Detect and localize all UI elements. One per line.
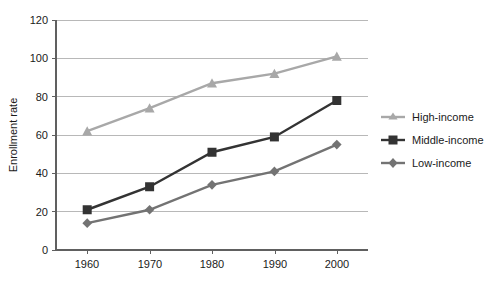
y-tick-label-20: 20 — [36, 206, 48, 218]
x-tick-label-1990: 1990 — [263, 258, 287, 270]
y-tick-label-0: 0 — [42, 244, 48, 256]
x-tick-label-1980: 1980 — [200, 258, 224, 270]
x-tick-label-2000: 2000 — [325, 258, 349, 270]
y-tick-label-40: 40 — [36, 167, 48, 179]
chart-figure: 120 100 80 60 40 20 0 Enrollment rate 19… — [0, 0, 489, 285]
y-tick-labels-group: 120 100 80 60 40 20 0 — [30, 14, 48, 256]
square-marker-icon — [389, 136, 398, 145]
legend-label-high-income: High-income — [412, 111, 474, 123]
y-tickmarks-group — [52, 20, 56, 250]
legend-item-high-income[interactable]: High-income — [381, 111, 474, 123]
data-point-middle-income-1970[interactable] — [145, 182, 154, 191]
x-tick-label-1960: 1960 — [75, 258, 99, 270]
x-tickmarks-group — [87, 250, 337, 254]
legend-label-middle-income: Middle-income — [412, 134, 484, 146]
y-tick-label-60: 60 — [36, 129, 48, 141]
y-tick-label-80: 80 — [36, 91, 48, 103]
x-tick-labels-group: 1960 1970 1980 1990 2000 — [75, 258, 349, 270]
y-axis-title: Enrollment rate — [7, 98, 19, 173]
data-point-middle-income-1980[interactable] — [208, 148, 217, 157]
data-point-middle-income-2000[interactable] — [332, 96, 341, 105]
y-tick-label-120: 120 — [30, 14, 48, 26]
diamond-marker-icon — [388, 158, 397, 168]
line-chart-canvas: 120 100 80 60 40 20 0 Enrollment rate 19… — [0, 0, 489, 285]
legend-item-middle-income[interactable]: Middle-income — [381, 134, 484, 146]
legend-label-low-income: Low-income — [412, 157, 471, 169]
data-point-middle-income-1960[interactable] — [83, 205, 92, 214]
y-tick-label-100: 100 — [30, 52, 48, 64]
legend-item-low-income[interactable]: Low-income — [381, 157, 471, 169]
chart-legend: High-income Middle-income Low-income — [381, 111, 484, 169]
data-point-middle-income-1990[interactable] — [270, 132, 279, 141]
x-tick-label-1970: 1970 — [138, 258, 162, 270]
